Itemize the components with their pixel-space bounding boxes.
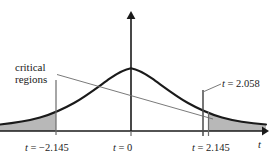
- tick-label-right-critical-eq: =: [195, 142, 206, 153]
- x-axis-label: t: [258, 139, 261, 150]
- tick-label-right-critical: t = 2.145: [192, 142, 230, 153]
- tick-label-center-value: 0: [127, 142, 132, 153]
- critical-regions-callout-line2: regions: [15, 74, 47, 86]
- tick-label-left-critical-value: −2.145: [39, 142, 69, 153]
- tick-label-right-critical-value: 2.145: [206, 142, 230, 153]
- t-distribution-figure: critical regions t = 2.058 t = −2.145 t …: [0, 0, 273, 164]
- tick-label-center: t = 0: [113, 142, 132, 153]
- callout-leader-right: [57, 75, 213, 120]
- test-statistic-annotation-value: 2.058: [236, 78, 260, 89]
- annotation-leader-line: [204, 84, 221, 92]
- tick-label-left-critical-eq: =: [28, 142, 39, 153]
- tick-label-center-eq: =: [116, 142, 127, 153]
- vertical-axis-arrowhead: [127, 11, 136, 19]
- test-statistic-annotation-eq: =: [225, 78, 236, 89]
- tick-label-left-critical: t = −2.145: [25, 142, 69, 153]
- test-statistic-annotation: t = 2.058: [222, 78, 260, 89]
- critical-regions-callout: critical regions: [15, 62, 47, 86]
